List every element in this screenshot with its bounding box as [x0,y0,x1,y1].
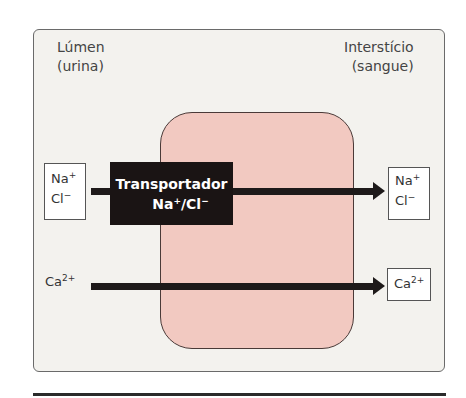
bottom-divider [33,393,446,396]
chloride-ion-interstitium: Cl− [395,191,429,211]
sodium-ion-lumen: Na+ [51,169,85,189]
lumen-label: Lúmen (urina) [57,38,105,76]
nacl-arrowhead [373,182,385,200]
calcium-ion-lumen: Ca2+ [45,274,75,289]
sodium-ion-interstitium: Na+ [395,171,429,191]
calcium-arrowhead [373,277,385,295]
nacl-transporter-box: Transportador Na+/Cl− [110,162,233,225]
lumen-nacl-box: Na+ Cl− [44,163,86,220]
epithelial-cell [160,112,354,349]
calcium-transport-arrow [91,283,377,290]
transporter-ions: Na+/Cl− [110,194,233,214]
interstitium-label: Interstício (sangue) [344,38,414,76]
interstitium-title: Interstício [344,38,414,57]
lumen-subtitle: (urina) [57,57,105,76]
chloride-ion-lumen: Cl− [51,189,85,209]
interstitium-subtitle: (sangue) [344,57,414,76]
transporter-title: Transportador [110,174,233,194]
lumen-title: Lúmen [57,38,105,57]
calcium-ion-interstitium-box: Ca2+ [387,268,431,301]
interstitium-nacl-box: Na+ Cl− [388,167,430,220]
